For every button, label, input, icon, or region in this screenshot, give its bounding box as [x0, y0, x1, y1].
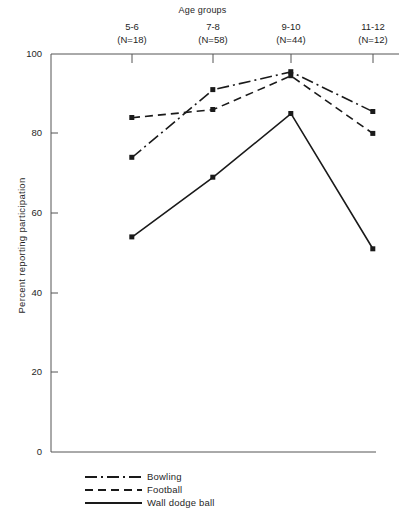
legend-swatches — [85, 477, 142, 503]
series-line-wall-dodge-ball — [132, 114, 373, 249]
data-point — [129, 234, 134, 239]
series-line-football — [132, 76, 373, 134]
chart-figure: Age groups 5-6 (N=18) 7-8 (N=58) 9-10 (N… — [0, 0, 405, 516]
data-point — [370, 131, 375, 136]
series-wall-dodge-ball — [129, 111, 375, 251]
legend-label-wall-dodge-ball: Wall dodge ball — [147, 497, 215, 508]
data-point — [288, 111, 293, 116]
data-point — [129, 155, 134, 160]
data-point — [288, 69, 293, 74]
data-point — [210, 175, 215, 180]
data-point — [210, 107, 215, 112]
data-point — [370, 109, 375, 114]
data-point — [129, 115, 134, 120]
data-point — [370, 246, 375, 251]
data-point — [210, 87, 215, 92]
series-football — [129, 73, 375, 136]
legend-label-bowling: Bowling — [147, 471, 182, 482]
plot-area — [0, 0, 405, 516]
legend-label-football: Football — [147, 484, 182, 495]
